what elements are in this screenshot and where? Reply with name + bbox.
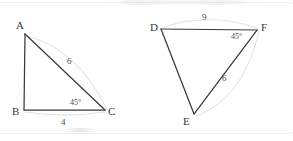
vertex-label-b: B <box>12 106 19 117</box>
segment-ab <box>24 34 25 110</box>
ghost-arc-def-right <box>196 31 259 116</box>
side-length-bc: 4 <box>61 118 66 127</box>
side-length-ef: 6 <box>222 74 227 83</box>
vertex-label-a: A <box>16 20 24 31</box>
segment-ef <box>194 30 257 114</box>
geometry-figure: A B C 6 4 45° D E F 9 6 45° <box>0 0 293 141</box>
ghost-arc-abc-base <box>25 112 105 115</box>
angle-measure-c: 45° <box>70 99 81 107</box>
vertex-label-c: C <box>108 106 115 117</box>
geometry-canvas <box>0 0 293 141</box>
segment-de <box>161 29 194 114</box>
side-length-ac: 6 <box>67 57 72 66</box>
angle-measure-f: 45° <box>231 33 242 41</box>
side-length-df: 9 <box>202 13 207 22</box>
vertex-label-d: D <box>150 22 158 33</box>
segment-df <box>161 29 257 30</box>
vertex-label-e: E <box>183 116 190 127</box>
segment-ac <box>25 34 105 110</box>
ghost-arc-def-top <box>163 20 257 28</box>
vertex-label-f: F <box>261 22 267 33</box>
